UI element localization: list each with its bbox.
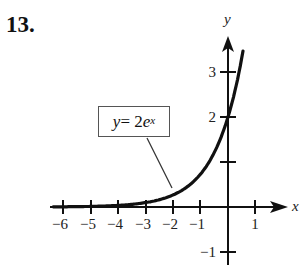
svg-text:−2: −2 <box>162 216 178 232</box>
svg-text:−1: −1 <box>200 244 216 260</box>
svg-text:1: 1 <box>251 216 259 232</box>
equation-label-box: y = 2ex <box>98 106 170 137</box>
svg-text:−3: −3 <box>135 216 151 232</box>
annotation-leader-line <box>147 138 172 188</box>
svg-text:−5: −5 <box>80 216 96 232</box>
equation-lhs: y <box>113 112 121 132</box>
svg-text:−1: −1 <box>189 216 205 232</box>
svg-text:−4: −4 <box>107 216 123 232</box>
svg-text:−6: −6 <box>52 216 68 232</box>
y-axis-label: y <box>222 11 231 27</box>
x-axis-label: x <box>291 198 299 214</box>
equation-exponent: x <box>150 114 155 126</box>
equation-equals: = 2 <box>120 112 142 132</box>
svg-text:3: 3 <box>209 64 217 80</box>
svg-text:2: 2 <box>209 109 217 125</box>
